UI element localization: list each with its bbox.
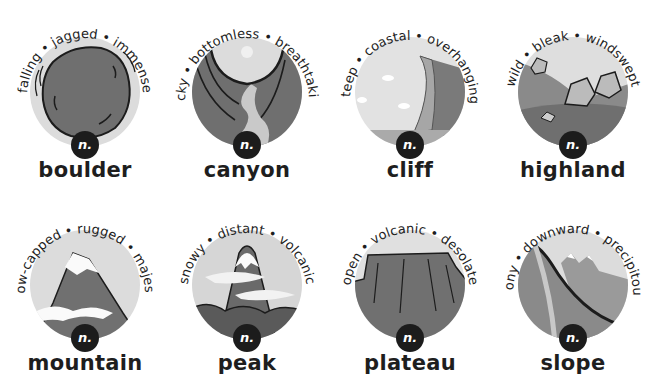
card-mountain: snow-capped • rugged • majestic n. mount… <box>3 193 167 386</box>
word-label: plateau <box>328 351 492 375</box>
card-peak: snowy • distant • volcanic n. peak <box>165 193 329 386</box>
word-label: peak <box>165 351 329 375</box>
noun-badge: n. <box>71 131 99 159</box>
word-label: cliff <box>328 158 492 182</box>
card-plateau: open • volcanic • desolate n. plateau <box>328 193 492 386</box>
card-highland: wild • bleak • windswept n. highland <box>491 0 655 193</box>
card-boulder: falling • jagged • immense n. boulder <box>3 0 167 193</box>
noun-badge: n. <box>396 324 424 352</box>
card-cliff: steep • coastal • overhanging n. cliff <box>328 0 492 193</box>
word-label: boulder <box>3 158 167 182</box>
noun-badge: n. <box>559 324 587 352</box>
noun-badge: n. <box>559 131 587 159</box>
word-label: canyon <box>165 158 329 182</box>
card-slope: stony • downward • precipitous n. slope <box>491 193 655 386</box>
noun-badge: n. <box>233 131 261 159</box>
noun-badge: n. <box>396 131 424 159</box>
noun-badge: n. <box>233 324 261 352</box>
word-label: mountain <box>3 351 167 375</box>
card-canyon: rocky • bottomless • breathtaking n. can… <box>165 0 329 193</box>
noun-badge: n. <box>71 324 99 352</box>
word-label: slope <box>491 351 655 375</box>
word-label: highland <box>491 158 655 182</box>
